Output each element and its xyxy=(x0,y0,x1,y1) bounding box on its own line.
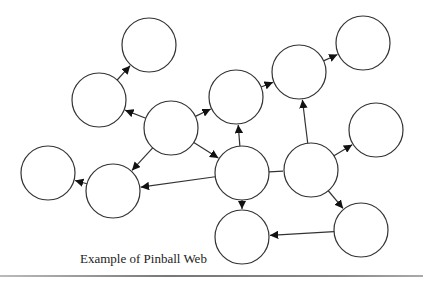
edge-n3-n2 xyxy=(125,110,146,118)
node-n3 xyxy=(144,101,198,155)
edge-n13-n12 xyxy=(270,232,334,236)
bottom-divider xyxy=(0,275,423,277)
node-n10 xyxy=(284,143,338,197)
node-n5 xyxy=(272,45,326,99)
edge-n3-n4 xyxy=(195,109,210,116)
edge-n4-n5 xyxy=(261,82,273,87)
edge-n10-n5 xyxy=(302,100,307,143)
edge-n3-n9 xyxy=(194,142,219,158)
edge-n2-n1 xyxy=(117,66,130,80)
diagram-caption: Example of Pinball Web xyxy=(80,251,207,267)
node-n12 xyxy=(215,210,269,264)
node-n7 xyxy=(21,146,75,200)
node-n2 xyxy=(72,73,126,127)
node-n11 xyxy=(349,103,403,157)
edge-n10-n13 xyxy=(328,191,343,209)
node-n13 xyxy=(334,203,388,257)
edge-n9-n4 xyxy=(238,125,240,146)
edge-n9-n8 xyxy=(141,177,216,187)
node-n4 xyxy=(209,70,263,124)
nodes-group xyxy=(21,16,403,264)
node-n6 xyxy=(336,16,390,70)
edge-n10-n11 xyxy=(334,145,352,156)
pinball-web-diagram xyxy=(0,0,423,281)
edge-n9-n10 xyxy=(269,171,283,172)
edge-n3-n8 xyxy=(132,148,153,171)
edge-n5-n6 xyxy=(324,55,338,61)
node-n8 xyxy=(86,164,140,218)
node-n1 xyxy=(122,18,176,72)
edge-n8-n7 xyxy=(75,180,87,183)
node-n9 xyxy=(215,146,269,200)
